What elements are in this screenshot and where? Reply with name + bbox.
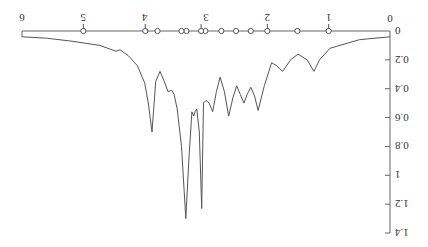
- y-tick-label: 0: [395, 25, 401, 37]
- x-tick-label: 2: [265, 12, 271, 24]
- marker-circle-icon: [155, 28, 160, 33]
- x-tick-label: 6: [19, 12, 25, 24]
- x-tick-label: 1: [326, 12, 332, 24]
- marker-set: [81, 24, 332, 34]
- x-tick-label: 0: [387, 13, 393, 25]
- marker-circle-icon: [265, 28, 270, 33]
- marker-circle-icon: [248, 28, 253, 33]
- marker-circle-icon: [81, 28, 86, 33]
- x-tick-label: 3: [203, 12, 209, 24]
- axes: [22, 31, 390, 233]
- y-tick-label: 0.2: [395, 54, 409, 66]
- y-tick-label: 0.6: [395, 112, 409, 124]
- tick-labels: 00.20.40.60.811.21.40123456: [19, 12, 409, 239]
- rotated-line-chart: 00.20.40.60.811.21.40123456: [0, 0, 428, 247]
- y-tick-label: 1.2: [395, 198, 409, 210]
- marker-circle-icon: [219, 28, 224, 33]
- marker-circle-icon: [198, 28, 203, 33]
- marker-circle-icon: [233, 28, 238, 33]
- spectrum-line: [22, 37, 390, 219]
- marker-circle-icon: [143, 28, 148, 33]
- x-tick-label: 5: [80, 12, 86, 24]
- marker-circle-icon: [326, 28, 331, 33]
- x-tick-label: 4: [141, 12, 147, 24]
- y-tick-label: 0.4: [395, 83, 409, 95]
- marker-circle-icon: [295, 28, 300, 33]
- y-tick-label: 0.8: [395, 140, 409, 152]
- chart-canvas: 00.20.40.60.811.21.40123456: [0, 0, 428, 247]
- y-tick-label: 1: [395, 169, 401, 181]
- marker-circle-icon: [179, 28, 184, 33]
- y-tick-label: 1.4: [395, 227, 409, 239]
